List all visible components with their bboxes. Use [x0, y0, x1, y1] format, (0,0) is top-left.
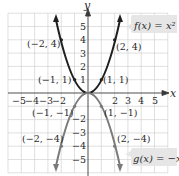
svg-text:−5: −5	[72, 154, 86, 165]
svg-text:2: 2	[80, 61, 86, 72]
f-callout: f(x) = x²	[125, 15, 177, 33]
point-labels: (−2, 4) (−1, 1) (1, 1) (2, 4) (−1, −1) (…	[22, 38, 151, 144]
parabola-chart: x y −5 −4 −3 −2 2 3 4 5 5 4 3 2 1 −2 −3 …	[0, 0, 179, 176]
svg-text:3: 3	[125, 95, 131, 106]
svg-text:5: 5	[152, 95, 158, 106]
svg-text:1: 1	[80, 74, 86, 85]
y-axis-label: y	[83, 0, 91, 12]
svg-text:−2: −2	[72, 113, 86, 124]
x-axis-label: x	[170, 87, 177, 100]
label-f-m1: (−1, 1)	[38, 74, 72, 85]
svg-text:5: 5	[80, 21, 86, 32]
f-arrow-right-icon	[117, 14, 123, 22]
svg-text:−3: −3	[39, 95, 53, 106]
label-f-m2: (−2, 4)	[27, 38, 61, 49]
label-g-p2: (2, −4)	[117, 133, 151, 144]
g-callout: g(x) = −x²	[125, 148, 179, 166]
label-f-p2: (2, 4)	[116, 41, 142, 52]
label-g-m2: (−2, −4)	[22, 133, 63, 144]
g-arrow-right-icon	[117, 164, 123, 172]
svg-text:3: 3	[80, 48, 86, 59]
svg-text:4: 4	[138, 95, 144, 106]
svg-text:g(x) = −x²: g(x) = −x²	[133, 153, 179, 164]
label-g-p1: (1, −1)	[104, 107, 138, 118]
svg-text:−5: −5	[12, 95, 26, 106]
svg-text:4: 4	[80, 34, 86, 45]
svg-text:−4: −4	[72, 140, 86, 151]
svg-text:f(x) = x²: f(x) = x²	[133, 20, 176, 31]
label-f-p1: (1, 1)	[103, 74, 129, 85]
svg-text:−3: −3	[72, 127, 86, 138]
g-arrow-left-icon	[53, 164, 59, 172]
svg-text:2: 2	[112, 95, 118, 106]
svg-text:−4: −4	[25, 95, 39, 106]
f-arrow-left-icon	[53, 14, 59, 22]
label-g-m1: (−1, −1)	[32, 107, 73, 118]
x-tick-labels: −5 −4 −3 −2 2 3 4 5	[12, 95, 158, 106]
svg-text:−2: −2	[52, 95, 66, 106]
